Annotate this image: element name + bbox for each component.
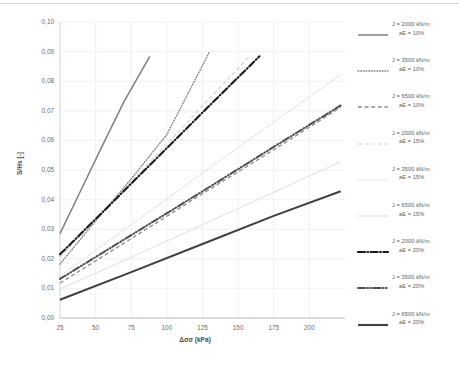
legend-label-line1: J = 2000 kN/m xyxy=(392,21,430,27)
y-tick-label: 0,10 xyxy=(28,18,54,25)
y-tick-label: 0,03 xyxy=(28,225,54,232)
y-tick-label: 0,04 xyxy=(28,196,54,203)
legend-line-swatch xyxy=(357,62,389,72)
x-tick-label: 175 xyxy=(261,324,287,331)
legend-label: J = 6500 kN/maE = 10% xyxy=(392,92,459,109)
legend-line-swatch xyxy=(357,279,389,289)
legend-label-line1: J = 6500 kN/m xyxy=(392,93,430,99)
y-tick-label: 0,07 xyxy=(28,107,54,114)
legend-item[interactable]: J = 3500 kN/maE = 20% xyxy=(357,273,459,299)
x-tick-label: 100 xyxy=(154,324,180,331)
legend-line-swatch xyxy=(357,26,389,36)
legend-line-swatch xyxy=(357,171,389,181)
x-tick-label: 200 xyxy=(296,324,322,331)
legend-label-line2: aE = 20% xyxy=(392,282,459,291)
legend-item[interactable]: J = 6500 kN/maE = 10% xyxy=(357,92,459,118)
legend-item[interactable]: J = 3500 kN/maE = 10% xyxy=(357,56,459,82)
legend-label-line1: J = 2000 kN/m xyxy=(392,130,430,136)
legend-label: J = 6500 kN/maE = 15% xyxy=(392,201,459,218)
y-tick-label: 0,08 xyxy=(28,77,54,84)
x-axis-title: Δσσ (kPa) xyxy=(135,336,255,343)
legend-line-swatch xyxy=(357,135,389,145)
legend-label: J = 3500 kN/maE = 10% xyxy=(392,56,459,73)
x-tick-label: 50 xyxy=(83,324,109,331)
y-axis-title: S/Hs [-] xyxy=(16,134,23,194)
legend-label-line2: aE = 10% xyxy=(392,29,459,38)
legend-label-line1: J = 6500 kN/m xyxy=(392,311,430,317)
legend-label: J = 2000 kN/maE = 15% xyxy=(392,129,459,146)
x-tick-label: 125 xyxy=(190,324,216,331)
legend-label-line2: aE = 15% xyxy=(392,210,459,219)
legend-item[interactable]: J = 6500 kN/maE = 20% xyxy=(357,310,459,336)
legend-item[interactable]: J = 3500 kN/maE = 15% xyxy=(357,165,459,191)
legend-label: J = 3500 kN/maE = 15% xyxy=(392,165,459,182)
legend-item[interactable]: J = 6500 kN/maE = 15% xyxy=(357,201,459,227)
legend-item[interactable]: J = 2000 kN/maE = 20% xyxy=(357,237,459,263)
legend-line-swatch xyxy=(357,316,389,326)
y-tick-label: 0,05 xyxy=(28,166,54,173)
y-tick-label: 0,09 xyxy=(28,48,54,55)
chart-container: S/Hs [-] Δσσ (kPa) 0,000,010,020,030,040… xyxy=(0,0,459,365)
y-tick-label: 0,01 xyxy=(28,284,54,291)
legend-label-line1: J = 3500 kN/m xyxy=(392,274,430,280)
legend-label-line1: J = 6500 kN/m xyxy=(392,202,430,208)
legend-label: J = 3500 kN/maE = 20% xyxy=(392,273,459,290)
legend-label-line2: aE = 15% xyxy=(392,173,459,182)
x-tick-label: 150 xyxy=(225,324,251,331)
y-tick-label: 0,00 xyxy=(28,314,54,321)
legend-line-swatch xyxy=(357,243,389,253)
x-tick-label: 25 xyxy=(47,324,73,331)
legend-line-swatch xyxy=(357,207,389,217)
legend-label-line1: J = 2000 kN/m xyxy=(392,238,430,244)
legend-line-swatch xyxy=(357,98,389,108)
legend-label: J = 6500 kN/maE = 20% xyxy=(392,310,459,327)
y-tick-label: 0,02 xyxy=(28,255,54,262)
x-tick-label: 75 xyxy=(118,324,144,331)
legend-label-line2: aE = 20% xyxy=(392,246,459,255)
legend-item[interactable]: J = 2000 kN/maE = 15% xyxy=(357,129,459,155)
legend-label: J = 2000 kN/maE = 20% xyxy=(392,237,459,254)
legend-item[interactable]: J = 2000 kN/maE = 10% xyxy=(357,20,459,46)
legend-label-line1: J = 3500 kN/m xyxy=(392,166,430,172)
legend-label-line2: aE = 20% xyxy=(392,318,459,327)
chart-legend: J = 2000 kN/maE = 10%J = 3500 kN/maE = 1… xyxy=(357,20,459,350)
legend-label-line2: aE = 10% xyxy=(392,101,459,110)
legend-label-line1: J = 3500 kN/m xyxy=(392,57,430,63)
legend-label: J = 2000 kN/maE = 10% xyxy=(392,20,459,37)
y-tick-label: 0,06 xyxy=(28,136,54,143)
legend-label-line2: aE = 15% xyxy=(392,137,459,146)
legend-label-line2: aE = 10% xyxy=(392,65,459,74)
